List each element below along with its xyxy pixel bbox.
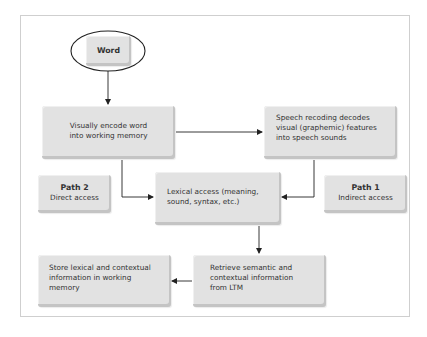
node-lexical-access: Lexical access (meaning, sound, syntax, … (155, 172, 281, 225)
node-path1-subtitle: Indirect access (324, 193, 407, 203)
node-word: Word (86, 36, 131, 66)
node-path2-title: Path 2 (38, 183, 111, 193)
node-word-label: Word (86, 46, 131, 56)
node-visual-encode: Visually encode word into working memory (42, 106, 175, 159)
node-path2-subtitle: Direct access (38, 193, 111, 203)
node-lexical-access-label: Lexical access (meaning, sound, syntax, … (167, 187, 281, 207)
node-speech-recoding: Speech recoding decodes visual (graphemi… (264, 106, 397, 159)
node-store: Store lexical and contextual information… (38, 255, 171, 307)
node-speech-recoding-label: Speech recoding decodes visual (graphemi… (276, 113, 397, 143)
arrow-encode-to-lexical (122, 160, 153, 197)
node-path1: Path 1 Indirect access (324, 175, 407, 213)
node-visual-encode-label: Visually encode word into working memory (42, 121, 175, 141)
node-retrieve-label: Retrieve semantic and contextual informa… (210, 263, 326, 293)
node-path1-title: Path 1 (324, 183, 407, 193)
node-retrieve: Retrieve semantic and contextual informa… (193, 255, 326, 307)
node-path2: Path 2 Direct access (38, 175, 111, 213)
arrow-speech-to-lexical (282, 160, 314, 197)
node-store-label: Store lexical and contextual information… (49, 263, 171, 293)
